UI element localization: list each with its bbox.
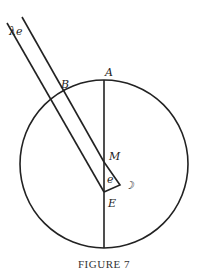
figure-caption: FIGURE 7: [78, 258, 130, 270]
label-B: B: [60, 78, 69, 91]
label-E: E: [107, 197, 116, 210]
label-e: e: [107, 173, 114, 186]
label-M: M: [108, 150, 121, 163]
moon-icon: ☽: [124, 179, 135, 192]
label-lambda-e: λe: [8, 25, 23, 38]
label-A: A: [104, 66, 113, 79]
line-sight-1: [7, 23, 104, 192]
figure-diagram: λe B A M e ☽ E FIGURE 7: [0, 0, 198, 273]
